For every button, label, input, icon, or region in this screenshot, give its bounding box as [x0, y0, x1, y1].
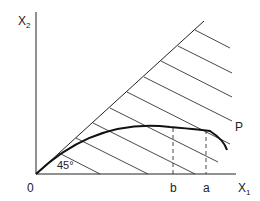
diagonal-45-line	[36, 21, 204, 174]
angle-label: 45°	[57, 160, 74, 171]
origin-label: 0	[27, 182, 34, 194]
curve-p-label: P	[235, 121, 243, 133]
diagram-graphic	[0, 0, 260, 201]
y-axis-label: X2	[18, 15, 30, 27]
marker-b-label: b	[170, 182, 177, 194]
diagram-canvas: X2 0 45° b a X1 P	[0, 0, 260, 201]
marker-a-label: a	[203, 182, 210, 194]
x-axis-label: X1	[238, 182, 250, 194]
